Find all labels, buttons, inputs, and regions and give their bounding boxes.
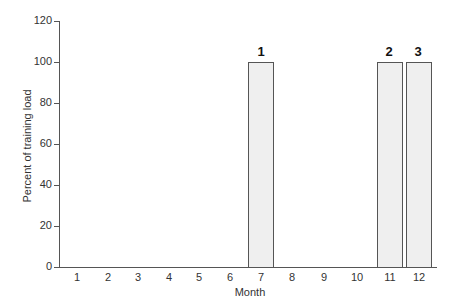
bar-month-7 bbox=[248, 62, 274, 267]
y-tick bbox=[54, 144, 59, 145]
y-tick-label: 100 bbox=[12, 55, 52, 67]
y-tick-label: 80 bbox=[12, 96, 52, 108]
x-tick-label: 11 bbox=[378, 271, 402, 283]
x-tick-label: 12 bbox=[407, 271, 431, 283]
y-tick-label: 120 bbox=[12, 14, 52, 26]
x-tick-label: 1 bbox=[65, 271, 89, 283]
y-tick bbox=[54, 267, 59, 268]
y-tick bbox=[54, 62, 59, 63]
bar-annotation: 3 bbox=[405, 44, 431, 59]
x-tick-label: 3 bbox=[126, 271, 150, 283]
bar-month-11 bbox=[377, 62, 403, 267]
y-tick-label: 60 bbox=[12, 137, 52, 149]
x-tick-label: 7 bbox=[249, 271, 273, 283]
y-tick bbox=[54, 103, 59, 104]
x-axis-line bbox=[59, 267, 437, 268]
y-tick-label: 40 bbox=[12, 178, 52, 190]
y-tick-label: 0 bbox=[12, 260, 52, 272]
x-axis-title: Month bbox=[220, 286, 280, 298]
x-tick-label: 6 bbox=[218, 271, 242, 283]
y-tick-label: 20 bbox=[12, 219, 52, 231]
bar-month-12 bbox=[406, 62, 432, 267]
x-tick-label: 9 bbox=[312, 271, 336, 283]
y-tick bbox=[54, 185, 59, 186]
x-tick-label: 5 bbox=[187, 271, 211, 283]
bar-annotation: 2 bbox=[376, 44, 402, 59]
y-tick bbox=[54, 21, 59, 22]
bar-annotation: 1 bbox=[248, 44, 274, 59]
x-tick-label: 4 bbox=[157, 271, 181, 283]
y-axis-line bbox=[59, 21, 60, 268]
y-tick bbox=[54, 226, 59, 227]
x-tick-label: 8 bbox=[280, 271, 304, 283]
x-tick-label: 10 bbox=[345, 271, 369, 283]
x-tick-label: 2 bbox=[96, 271, 120, 283]
